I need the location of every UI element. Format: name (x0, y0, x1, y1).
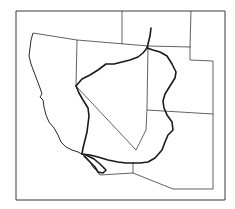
basin-map (0, 0, 235, 209)
map-background (0, 0, 235, 209)
